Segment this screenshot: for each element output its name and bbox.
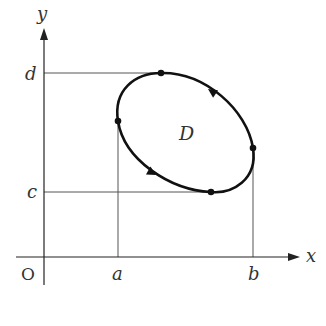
axes (16, 28, 300, 285)
y-axis-arrow-icon (40, 28, 48, 40)
tick-label-b: b (248, 263, 260, 284)
diagram-canvas: y x O d c a b D (0, 0, 326, 326)
origin-label: O (21, 264, 35, 284)
x-axis-label: x (306, 245, 316, 266)
region-label: D (178, 122, 194, 144)
point-left (115, 118, 122, 125)
guide-lines (44, 73, 253, 257)
y-axis-label: y (36, 3, 48, 24)
point-top (158, 70, 165, 77)
tick-label-d: d (25, 63, 37, 84)
point-bottom (208, 189, 215, 196)
point-right (250, 145, 257, 152)
tick-label-a: a (112, 263, 123, 284)
x-axis-arrow-icon (288, 253, 300, 261)
tick-label-c: c (27, 181, 37, 202)
